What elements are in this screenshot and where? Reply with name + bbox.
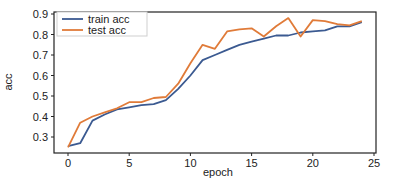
series-line-test-acc bbox=[68, 18, 362, 147]
x-tick-label: 10 bbox=[184, 157, 196, 169]
y-tick-label: 0.6 bbox=[33, 70, 48, 82]
legend-label-test-acc: test acc bbox=[88, 24, 126, 36]
series-line-train-acc bbox=[68, 22, 362, 146]
y-tick-label: 0.9 bbox=[33, 8, 48, 20]
y-tick-label: 0.7 bbox=[33, 49, 48, 61]
x-tick-label: 5 bbox=[126, 157, 132, 169]
y-axis-label: acc bbox=[2, 73, 14, 91]
x-tick-label: 25 bbox=[368, 157, 380, 169]
y-tick-label: 0.5 bbox=[33, 90, 48, 102]
y-axis-ticks: 0.30.40.50.60.70.80.9 bbox=[33, 8, 54, 143]
plot-series bbox=[68, 18, 362, 147]
y-tick-label: 0.8 bbox=[33, 29, 48, 41]
x-tick-label: 20 bbox=[307, 157, 319, 169]
legend: train acc test acc bbox=[57, 12, 147, 36]
x-tick-label: 15 bbox=[245, 157, 257, 169]
x-axis-label: epoch bbox=[203, 166, 233, 178]
y-tick-label: 0.4 bbox=[33, 111, 48, 123]
x-tick-label: 0 bbox=[65, 157, 71, 169]
accuracy-line-chart: 0.30.40.50.60.70.80.9 0510152025 epoch a… bbox=[0, 0, 398, 182]
y-tick-label: 0.3 bbox=[33, 131, 48, 143]
